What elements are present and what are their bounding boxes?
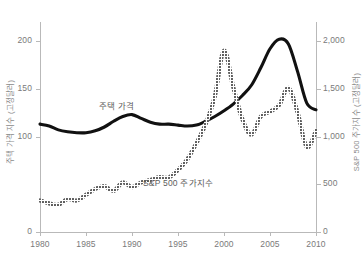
chart-container: 0100150200 05001,0001,5002,000 198019851… — [0, 0, 362, 262]
series-label-house-price: 주택 가격 — [99, 101, 134, 111]
y-axis-left-title: 주택 가격 지수 (고정달러) — [7, 77, 15, 167]
series-line-sp500 — [0, 0, 362, 262]
y-axis-right-title: S&P 500 주가지수 (고정달러) — [353, 70, 361, 174]
series-label-sp500: S&P 500 주가지수 — [143, 178, 213, 188]
plot-area — [0, 0, 362, 262]
